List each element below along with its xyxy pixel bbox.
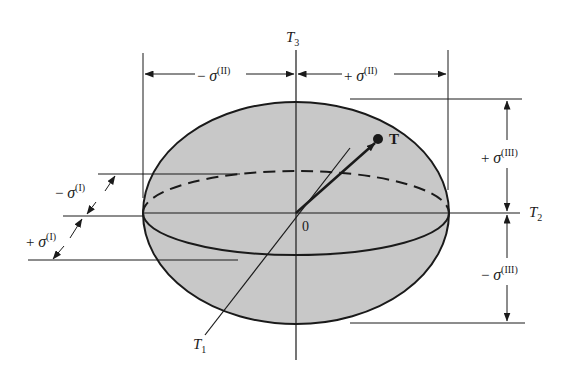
origin-label: 0 bbox=[302, 220, 309, 234]
diagram-canvas bbox=[0, 0, 571, 380]
sigma-iii-neg-label: − σ(III) bbox=[481, 265, 518, 283]
t3-label: T3 bbox=[286, 30, 299, 48]
vector-t-label: T bbox=[389, 132, 399, 147]
sigma-ii-neg-label: − σ(II) bbox=[197, 66, 230, 84]
dim-sigma-i-neg-up bbox=[105, 176, 115, 191]
sigma-ii-pos-label: + σ(II) bbox=[344, 66, 377, 84]
t2-label: T2 bbox=[529, 205, 542, 223]
sigma-i-pos-label: + σ(I) bbox=[26, 232, 56, 250]
t1-label: T1 bbox=[193, 337, 206, 355]
dim-sigma-i-neg-down bbox=[87, 202, 96, 214]
sigma-i-neg-label: − σ(I) bbox=[55, 183, 85, 201]
stress-ellipsoid-figure: T3 T2 T1 0 T − σ(II) + σ(II) + σ(III) − … bbox=[0, 0, 571, 380]
vector-t-point bbox=[373, 134, 383, 144]
sigma-iii-pos-label: + σ(III) bbox=[481, 148, 518, 166]
dim-sigma-i-pos-up bbox=[70, 219, 82, 238]
